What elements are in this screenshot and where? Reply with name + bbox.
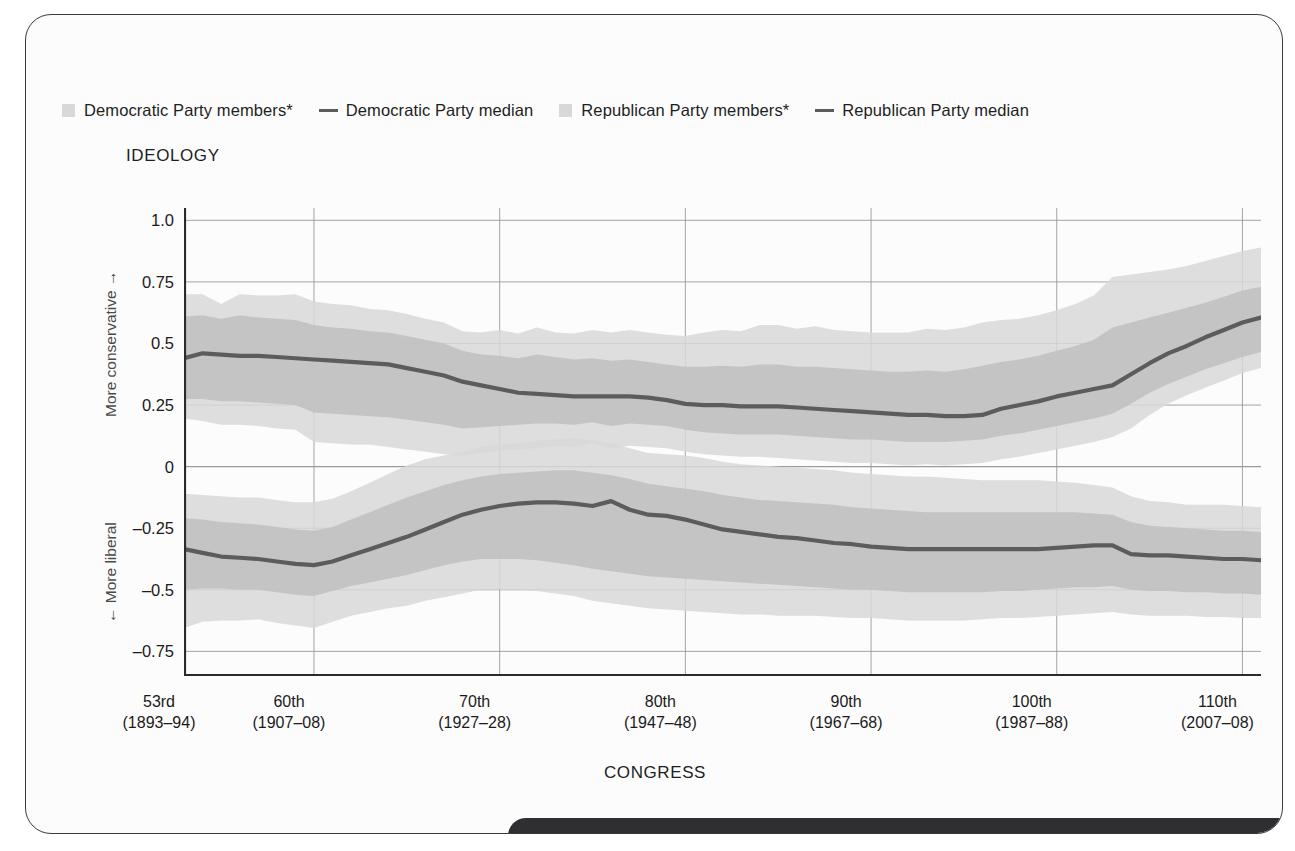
x-tick-congress: 90th bbox=[810, 691, 883, 712]
legend-rep-median[interactable]: Republican Party median bbox=[815, 101, 1029, 120]
legend-rep-members[interactable]: Republican Party members* bbox=[559, 101, 789, 120]
x-tick-congress: 70th bbox=[438, 691, 511, 712]
x-tick-congress: 100th bbox=[995, 691, 1068, 712]
x-tick-years: (1927–28) bbox=[438, 712, 511, 733]
x-tick-label: 100th(1987–88) bbox=[995, 691, 1068, 733]
page-frame: Democratic Party members*Democratic Part… bbox=[25, 14, 1283, 834]
legend-swatch-icon bbox=[559, 104, 572, 117]
y-tick-label: –0.75 bbox=[133, 642, 174, 661]
y-tick-label: –0.5 bbox=[142, 580, 174, 599]
x-tick-label: 60th(1907–08) bbox=[252, 691, 325, 733]
bottom-decorative-bar bbox=[508, 818, 1283, 834]
x-tick-label: 70th(1927–28) bbox=[438, 691, 511, 733]
x-tick-years: (1907–08) bbox=[252, 712, 325, 733]
legend-label: Republican Party median bbox=[842, 101, 1029, 120]
legend-label: Republican Party members* bbox=[581, 101, 789, 120]
y-tick-label: 0.25 bbox=[142, 396, 174, 415]
legend-line-icon bbox=[319, 109, 338, 112]
y-axis-title: IDEOLOGY bbox=[126, 146, 220, 166]
legend-label: Democratic Party median bbox=[346, 101, 534, 120]
x-tick-congress: 53rd bbox=[123, 691, 196, 712]
legend-dem-members[interactable]: Democratic Party members* bbox=[62, 101, 293, 120]
x-tick-years: (1967–68) bbox=[810, 712, 883, 733]
x-tick-label: 80th(1947–48) bbox=[624, 691, 697, 733]
x-tick-label: 110th(2007–08) bbox=[1181, 691, 1254, 733]
x-tick-congress: 110th bbox=[1181, 691, 1254, 712]
x-tick-labels: 53rd(1893–94)60th(1907–08)70th(1927–28)8… bbox=[26, 691, 1283, 751]
legend-line-icon bbox=[815, 109, 834, 112]
x-tick-label: 53rd(1893–94) bbox=[123, 691, 196, 733]
x-axis-title: CONGRESS bbox=[26, 763, 1283, 783]
legend-swatch-icon bbox=[62, 104, 75, 117]
y-tick-label: 0 bbox=[165, 457, 174, 476]
x-tick-years: (1947–48) bbox=[624, 712, 697, 733]
y-tick-label: 1.0 bbox=[151, 211, 174, 230]
y-tick-labels: 1.00.750.50.250–0.25–0.5–0.75 bbox=[118, 208, 174, 676]
y-tick-label: –0.25 bbox=[133, 519, 174, 538]
y-tick-label: 0.5 bbox=[151, 334, 174, 353]
legend-label: Democratic Party members* bbox=[84, 101, 293, 120]
x-tick-label: 90th(1967–68) bbox=[810, 691, 883, 733]
x-tick-congress: 80th bbox=[624, 691, 697, 712]
chart-svg bbox=[184, 208, 1261, 676]
x-tick-congress: 60th bbox=[252, 691, 325, 712]
x-tick-years: (1893–94) bbox=[123, 712, 196, 733]
plot-area bbox=[184, 208, 1261, 676]
chart-legend: Democratic Party members*Democratic Part… bbox=[62, 101, 1055, 120]
x-tick-years: (1987–88) bbox=[995, 712, 1068, 733]
y-tick-label: 0.75 bbox=[142, 272, 174, 291]
x-tick-years: (2007–08) bbox=[1181, 712, 1254, 733]
legend-dem-median[interactable]: Democratic Party median bbox=[319, 101, 534, 120]
